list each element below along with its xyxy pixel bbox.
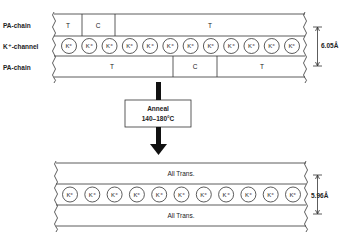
spacing-before: 6.05Å (321, 41, 339, 49)
k-ion-label: K⁺ (223, 192, 230, 198)
ion-row-before: K⁺K⁺K⁺K⁺K⁺K⁺K⁺K⁺K⁺K⁺K⁺K⁺ (62, 39, 300, 54)
k-ion-label: K⁺ (133, 192, 140, 198)
label-pa-chain-bottom: PA-chain (3, 64, 31, 71)
ion-row-after: K⁺K⁺K⁺K⁺K⁺K⁺K⁺K⁺K⁺K⁺K⁺ (63, 187, 301, 202)
k-ion-label: K⁺ (106, 43, 113, 49)
k-ion-label: K⁺ (288, 43, 295, 49)
k-ion-label: K⁺ (86, 43, 93, 49)
k-ion-label: K⁺ (200, 192, 207, 198)
k-ion-label: K⁺ (267, 192, 274, 198)
k-ion-label: K⁺ (178, 192, 185, 198)
label-pa-chain-top: PA-chain (3, 22, 31, 29)
k-ion-label: K⁺ (187, 43, 194, 49)
segment-top-t2: T (208, 22, 212, 29)
segment-top-t1: T (66, 22, 70, 29)
label-k-channel: K⁺-channel (3, 43, 39, 50)
spacing-after: 5.96Å (311, 191, 329, 199)
segment-bottom-t1: T (110, 63, 114, 70)
k-ion-label: K⁺ (89, 192, 96, 198)
k-ion-label: K⁺ (66, 192, 73, 198)
process-arrow-shaft (156, 127, 161, 145)
annealing-diagram: K⁺K⁺K⁺K⁺K⁺K⁺K⁺K⁺K⁺K⁺K⁺K⁺ K⁺K⁺K⁺K⁺K⁺K⁺K⁺K… (0, 0, 340, 239)
process-arrow-top (156, 82, 161, 100)
after-top-chain-label: All Trans. (167, 170, 194, 177)
k-ion-label: K⁺ (245, 192, 252, 198)
anneal-temperature: 140–180°C (142, 115, 175, 122)
k-ion-label: K⁺ (111, 192, 118, 198)
process-arrow-head-icon (150, 144, 167, 155)
k-ion-label: K⁺ (156, 192, 163, 198)
k-ion-label: K⁺ (147, 43, 154, 49)
k-ion-label: K⁺ (289, 192, 296, 198)
segment-bottom-c: C (193, 63, 198, 70)
k-ion-label: K⁺ (207, 43, 214, 49)
k-ion-label: K⁺ (126, 43, 133, 49)
k-ion-label: K⁺ (167, 43, 174, 49)
segment-top-c: C (96, 22, 101, 29)
after-bottom-chain-label: All Trans. (167, 212, 194, 219)
k-ion-label: K⁺ (248, 43, 255, 49)
k-ion-label: K⁺ (228, 43, 235, 49)
segment-bottom-t2: T (260, 63, 264, 70)
k-ion-label: K⁺ (268, 43, 275, 49)
anneal-label: Anneal (147, 105, 169, 112)
k-ion-label: K⁺ (65, 43, 72, 49)
